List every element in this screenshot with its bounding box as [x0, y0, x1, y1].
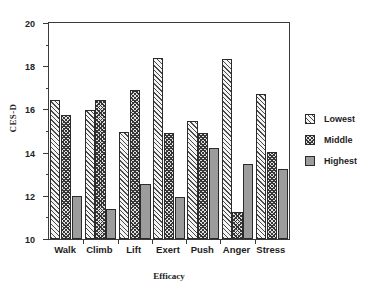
legend-swatch-highest: [305, 156, 315, 166]
x-tick-label-exert: Exert: [156, 244, 180, 255]
legend-label-highest: Highest: [324, 156, 357, 166]
x-tick: [83, 239, 84, 244]
bar-anger-middle: [232, 212, 242, 239]
y-tick-major: 20: [43, 23, 49, 24]
bar-push-middle: [198, 133, 208, 239]
x-tick-label-anger: Anger: [223, 244, 250, 255]
bar-climb-middle: [95, 100, 105, 239]
bar-stress-middle: [267, 152, 277, 239]
y-tick-minor: [46, 88, 50, 89]
bar-stress-highest: [278, 169, 288, 239]
bar-anger-lowest: [222, 59, 232, 239]
legend-label-middle: Middle: [324, 135, 353, 145]
y-tick-major: 14: [43, 153, 49, 154]
bar-lift-highest: [140, 184, 150, 239]
bar-exert-middle: [164, 133, 174, 239]
y-tick-major: 10: [43, 239, 49, 240]
bar-exert-highest: [175, 197, 185, 239]
y-tick-minor: [46, 45, 50, 46]
x-tick-label-stress: Stress: [256, 244, 285, 255]
x-tick-label-push: Push: [191, 244, 214, 255]
bar-lift-lowest: [119, 132, 129, 239]
x-tick: [220, 239, 221, 244]
chart-figure: CES-D 101214161820 WalkClimbLiftExertPus…: [0, 0, 388, 289]
y-tick-minor: [46, 131, 50, 132]
y-tick-label: 10: [25, 235, 35, 245]
y-tick-major: 16: [43, 109, 49, 110]
bar-climb-lowest: [85, 110, 95, 239]
y-tick-major: 18: [43, 66, 49, 67]
y-tick-minor: [46, 174, 50, 175]
chart-legend: Lowest Middle Highest: [305, 110, 385, 173]
bar-push-highest: [209, 148, 219, 239]
bar-push-lowest: [187, 121, 197, 239]
legend-item-highest[interactable]: Highest: [305, 152, 385, 170]
bar-walk-middle: [61, 115, 71, 239]
legend-item-middle[interactable]: Middle: [305, 131, 385, 149]
y-axis-title: CES-D: [8, 88, 18, 148]
cropped-top-title: [38, 0, 238, 5]
bar-exert-lowest: [153, 58, 163, 239]
y-tick-label: 14: [25, 149, 35, 159]
y-tick-minor: [46, 217, 50, 218]
bar-stress-lowest: [256, 94, 266, 239]
bar-walk-highest: [72, 196, 82, 239]
bar-climb-highest: [106, 209, 116, 239]
x-tick: [118, 239, 119, 244]
bar-lift-middle: [130, 90, 140, 239]
x-axis-title: Efficacy: [48, 271, 290, 281]
y-tick-label: 18: [25, 62, 35, 72]
y-tick-label: 20: [25, 19, 35, 29]
x-tick-label-lift: Lift: [126, 244, 141, 255]
plot-area: 101214161820: [48, 22, 290, 240]
bar-walk-lowest: [50, 100, 60, 239]
x-tick: [186, 239, 187, 244]
legend-label-lowest: Lowest: [324, 114, 355, 124]
legend-swatch-lowest: [305, 114, 315, 124]
x-tick-label-walk: Walk: [54, 244, 76, 255]
y-tick-label: 16: [25, 105, 35, 115]
y-tick-label: 12: [25, 192, 35, 202]
x-tick: [152, 239, 153, 244]
y-tick-major: 12: [43, 196, 49, 197]
legend-swatch-middle: [305, 135, 315, 145]
legend-item-lowest[interactable]: Lowest: [305, 110, 385, 128]
bar-anger-highest: [243, 164, 253, 239]
x-tick-label-climb: Climb: [86, 244, 112, 255]
